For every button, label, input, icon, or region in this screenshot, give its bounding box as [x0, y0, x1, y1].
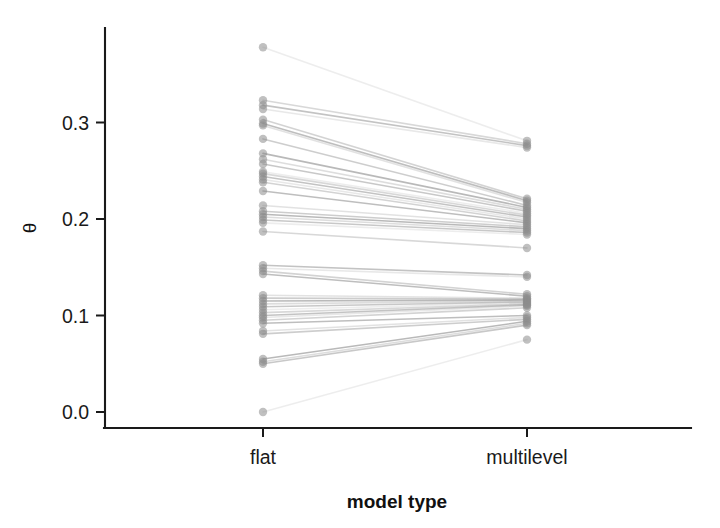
y-tick-label: 0.3	[62, 112, 89, 134]
data-point	[259, 187, 267, 195]
data-point	[259, 408, 267, 416]
slopegraph-figure: 0.00.10.20.3 flatmultilevel θ model type	[0, 0, 720, 528]
plot-canvas: 0.00.10.20.3 flatmultilevel θ model type	[0, 0, 720, 528]
slope-line	[263, 274, 527, 296]
y-axis-ticks: 0.00.10.20.3	[62, 112, 105, 424]
y-axis-title: θ	[19, 223, 40, 234]
x-axis-title: model type	[347, 491, 447, 512]
slope-line	[263, 109, 527, 148]
x-axis-ticks: flatmultilevel	[250, 428, 568, 468]
data-point	[259, 178, 267, 186]
data-point	[259, 135, 267, 143]
data-point	[259, 319, 267, 327]
data-point	[259, 219, 267, 227]
data-point	[259, 121, 267, 129]
slope-line	[263, 105, 527, 146]
data-point	[523, 244, 531, 252]
data-point	[259, 105, 267, 113]
slope-points-layer	[259, 43, 531, 416]
y-tick-label: 0.0	[62, 401, 89, 423]
x-tick-label: multilevel	[486, 446, 567, 468]
slope-line	[263, 232, 527, 248]
data-point	[523, 321, 531, 329]
data-point	[523, 143, 531, 151]
data-point	[259, 43, 267, 51]
slope-line	[263, 47, 527, 141]
data-point	[259, 360, 267, 368]
data-point	[259, 160, 267, 168]
x-tick-label: flat	[250, 446, 277, 468]
data-point	[523, 230, 531, 238]
y-tick-label: 0.1	[62, 305, 89, 327]
data-point	[523, 273, 531, 281]
data-point	[523, 335, 531, 343]
slope-line	[263, 298, 527, 299]
slope-line	[263, 271, 527, 294]
slope-line	[263, 177, 527, 218]
slope-line	[263, 340, 527, 412]
data-point	[259, 330, 267, 338]
data-point	[259, 227, 267, 235]
slope-lines-layer	[263, 47, 527, 412]
data-point	[523, 304, 531, 312]
y-tick-label: 0.2	[62, 208, 89, 230]
data-point	[259, 270, 267, 278]
